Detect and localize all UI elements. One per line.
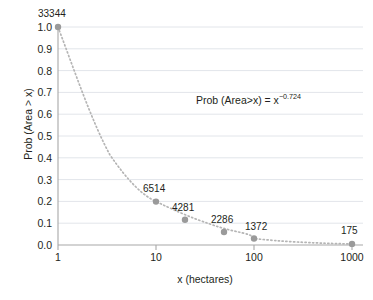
x-tick-label-100: 100 (234, 252, 274, 262)
chart-container: Prob (Area > x) 1.0 0.9 0.8 0.7 0.6 0.5 … (0, 0, 373, 300)
data-point-label-2: 6514 (143, 184, 165, 194)
equation-annotation: Prob (Area>x) = x−0.724 (196, 92, 301, 106)
data-point-label-4: 2286 (211, 215, 233, 225)
data-point-label-6: 175 (341, 226, 358, 236)
x-axis-title: x (hectares) (58, 273, 352, 285)
x-tick-label-1000: 1000 (332, 252, 372, 262)
data-point-label-3: 4281 (172, 203, 194, 213)
gridlines (58, 27, 363, 223)
x-tick-label-10: 10 (136, 252, 176, 262)
data-point-1 (55, 24, 61, 30)
data-point-4 (221, 229, 227, 235)
data-point-5 (251, 235, 257, 241)
equation-exponent: −0.724 (279, 92, 301, 101)
data-point-label-5: 1372 (245, 222, 267, 232)
x-tick-label-1: 1 (38, 252, 78, 262)
data-point-2 (153, 198, 159, 204)
data-point-label-1: 33344 (38, 9, 66, 19)
x-axis-ticks (58, 245, 352, 250)
data-point-6 (349, 241, 355, 247)
equation-base: Prob (Area>x) = x (196, 94, 279, 106)
data-point-3 (182, 217, 188, 223)
data-markers (55, 24, 355, 247)
